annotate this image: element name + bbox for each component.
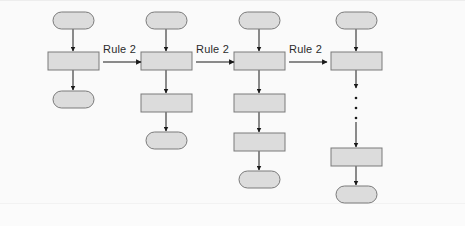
vertical-ellipsis-dot: [355, 107, 358, 110]
end-node: [336, 186, 377, 203]
process-node: [48, 52, 99, 70]
start-node: [336, 12, 377, 29]
vertical-ellipsis-dot: [355, 97, 358, 100]
process-node: [234, 52, 285, 70]
end-node: [53, 91, 94, 108]
rule-label-3: Rule 2: [289, 43, 322, 55]
process-node: [234, 94, 285, 112]
process-node: [141, 94, 192, 112]
start-node: [53, 12, 94, 29]
process-node: [331, 148, 382, 166]
derivation-step-3: [234, 12, 285, 188]
rule-label-1: Rule 2: [103, 43, 136, 55]
process-node: [331, 52, 382, 70]
derivation-step-1: [48, 12, 99, 108]
process-node: [234, 133, 285, 151]
end-node: [146, 132, 187, 149]
derivation-step-2: [141, 12, 192, 149]
start-node: [146, 12, 187, 29]
derivation-diagram: [0, 0, 465, 226]
derivation-step-n: [331, 12, 382, 203]
diagram-canvas: Rule 2Rule 2Rule 2: [0, 0, 465, 226]
vertical-ellipsis-dot: [355, 117, 358, 120]
process-node: [141, 52, 192, 70]
start-node: [239, 12, 280, 29]
rule-label-2: Rule 2: [196, 43, 229, 55]
end-node: [239, 171, 280, 188]
